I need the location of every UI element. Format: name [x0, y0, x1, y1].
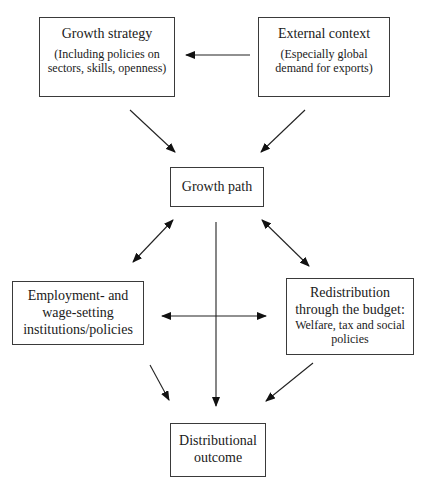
- node-subtitle: policies: [287, 332, 413, 346]
- node-distributional-outcome: Distributional outcome: [170, 423, 266, 477]
- node-subtitle: demand for exports): [259, 61, 389, 75]
- node-growth-path: Growth path: [170, 167, 264, 207]
- node-title: outcome: [171, 449, 265, 466]
- node-title: Growth path: [171, 178, 263, 195]
- arrow-path-redistribution: [262, 220, 309, 266]
- node-title: wage-setting: [13, 304, 143, 321]
- node-subtitle: sectors, skills, openness): [40, 61, 174, 75]
- arrow-strategy-to-path: [130, 110, 175, 152]
- node-external-context: External context (Especially global dema…: [258, 17, 390, 97]
- arrow-external-to-path: [261, 110, 305, 152]
- node-title: institutions/policies: [13, 321, 143, 338]
- node-title: External context: [259, 25, 389, 42]
- node-title: Redistribution: [287, 284, 413, 301]
- node-growth-strategy: Growth strategy (Including policies on s…: [39, 17, 175, 97]
- node-title: through the budget:: [287, 301, 413, 318]
- arrow-employment-to-outcome: [150, 365, 169, 400]
- node-subtitle: (Including policies on: [40, 47, 174, 61]
- node-title: Distributional: [171, 432, 265, 449]
- node-title: Growth strategy: [40, 25, 174, 42]
- arrow-redistribution-to-outcome: [266, 363, 313, 401]
- node-subtitle: (Especially global: [259, 47, 389, 61]
- node-title: Employment- and: [13, 287, 143, 304]
- node-redistribution: Redistribution through the budget: Welfa…: [286, 278, 414, 355]
- node-employment-institutions: Employment- and wage-setting institution…: [12, 281, 144, 345]
- node-subtitle: Welfare, tax and social: [287, 318, 413, 332]
- arrow-path-employment: [133, 220, 173, 262]
